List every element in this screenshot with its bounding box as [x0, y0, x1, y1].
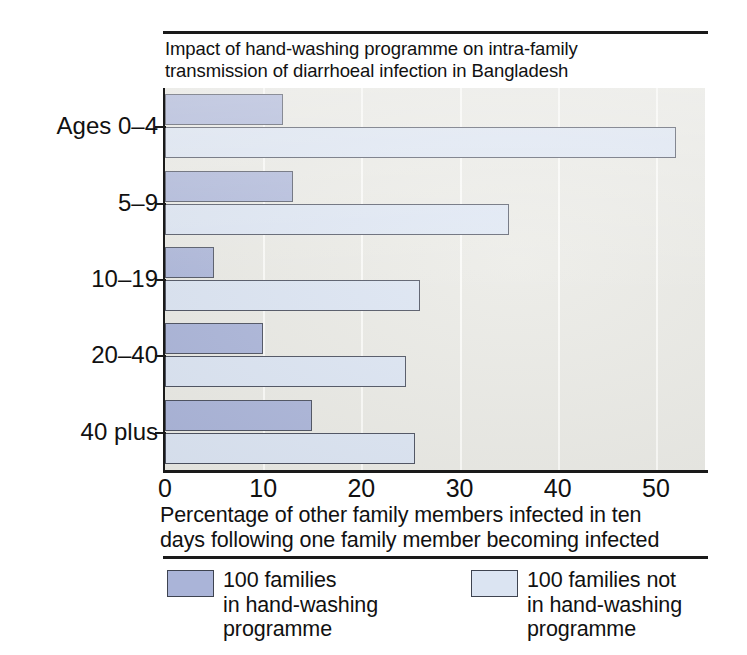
x-tick-label: 20: [347, 474, 375, 502]
legend-divider: [163, 556, 708, 559]
y-tick-mark: [155, 355, 166, 357]
category-label: 10–19: [8, 266, 158, 292]
bar-series-b: [165, 280, 420, 311]
chart-title: Impact of hand-washing programme on intr…: [165, 38, 725, 82]
legend-swatch-icon-series-a: [167, 570, 214, 597]
bar-series-a: [165, 400, 312, 431]
category-label: 20–40: [8, 342, 158, 368]
y-tick-mark: [155, 126, 166, 128]
category-label: 40 plus: [8, 419, 158, 445]
legend-label-series-a: 100 families in hand-washing programme: [223, 568, 378, 642]
bar-series-b: [165, 433, 415, 464]
legend-swatch-icon-series-b: [471, 570, 518, 597]
bar-series-b: [165, 127, 676, 158]
x-axis-line: [163, 470, 708, 473]
x-tick-label: 30: [446, 474, 474, 502]
y-tick-mark: [155, 279, 166, 281]
bar-series-b: [165, 204, 509, 235]
x-tick-label: 40: [544, 474, 572, 502]
bar-series-a: [165, 171, 293, 202]
x-tick-label: 50: [642, 474, 670, 502]
plot-area: [165, 88, 705, 470]
bar-series-b: [165, 356, 406, 387]
x-axis-caption: Percentage of other family members infec…: [160, 503, 740, 553]
legend-entry-series-a: 100 families in hand-washing programme: [167, 568, 378, 642]
chart-figure: Impact of hand-washing programme on intr…: [0, 0, 747, 655]
legend-label-series-b: 100 families not in hand-washing program…: [527, 568, 682, 642]
y-tick-mark: [155, 203, 166, 205]
y-tick-mark: [155, 432, 166, 434]
bar-series-a: [165, 247, 214, 278]
title-divider: [163, 31, 708, 34]
category-label: 5–9: [8, 190, 158, 216]
y-axis-category-labels: Ages 0–45–910–1920–4040 plus: [0, 0, 158, 655]
bar-series-a: [165, 323, 263, 354]
x-tick-label: 10: [249, 474, 277, 502]
legend-entry-series-b: 100 families not in hand-washing program…: [471, 568, 682, 642]
category-label: Ages 0–4: [8, 113, 158, 139]
bar-series-a: [165, 94, 283, 125]
x-tick-label: 0: [158, 474, 172, 502]
